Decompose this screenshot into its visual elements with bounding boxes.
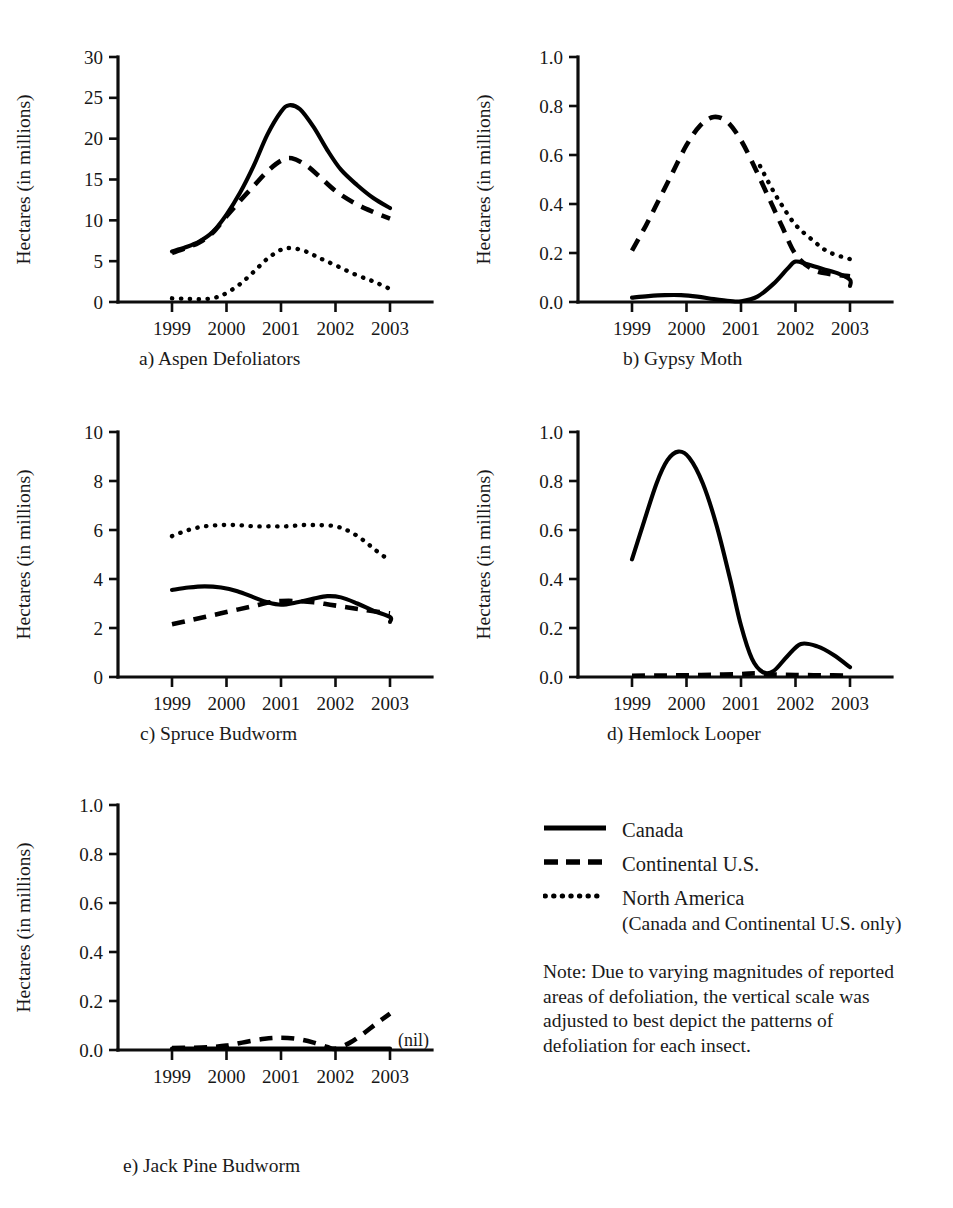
x-tick-label: 1999 xyxy=(613,318,651,339)
figure-note: Note: Due to varying magnitudes of repor… xyxy=(543,960,915,1058)
y-tick-label: 0.0 xyxy=(79,1040,103,1061)
y-tick-label: 0.8 xyxy=(539,471,563,492)
x-tick-label: 2000 xyxy=(668,318,706,339)
x-tick-label: 2002 xyxy=(317,1066,355,1087)
x-tick-label: 2001 xyxy=(722,318,760,339)
panel-caption-a: a) Aspen Defoliators xyxy=(139,348,300,370)
x-tick-label: 1999 xyxy=(153,693,191,714)
y-tick-label: 0.8 xyxy=(539,96,563,117)
x-tick-label: 2003 xyxy=(831,318,869,339)
legend-swatch-dotted xyxy=(543,889,607,911)
series-line-solid xyxy=(172,105,390,251)
series-line-dotted xyxy=(172,525,390,561)
chart-panel-e: 0.00.20.40.60.81.019992000200120022003Ye… xyxy=(0,778,470,1098)
y-tick-label: 0.4 xyxy=(539,194,563,215)
panel-caption-b: b) Gypsy Moth xyxy=(623,348,742,370)
legend-label-north-america: North America xyxy=(622,887,744,909)
x-tick-label: 1999 xyxy=(153,318,191,339)
y-tick-label: 25 xyxy=(84,87,103,108)
x-tick-label: 2003 xyxy=(371,1066,409,1087)
y-axis-title: Hectares (in millions) xyxy=(473,469,495,639)
x-tick-label: 2000 xyxy=(208,1066,246,1087)
legend-swatch-dashed xyxy=(543,855,607,877)
y-tick-label: 0.4 xyxy=(539,569,563,590)
y-tick-label: 0.8 xyxy=(79,844,103,865)
panel-caption-c: c) Spruce Budworm xyxy=(140,723,297,745)
y-tick-label: 0.2 xyxy=(539,243,563,264)
x-tick-label: 2001 xyxy=(262,1066,300,1087)
series-line-solid xyxy=(632,452,850,674)
panel-caption-d: d) Hemlock Looper xyxy=(607,723,761,745)
legend-label-continental-us: Continental U.S. xyxy=(622,852,759,877)
chart-panel-d: 0.00.20.40.60.81.019992000200120022003Ye… xyxy=(460,405,930,725)
y-tick-label: 2 xyxy=(94,618,104,639)
y-tick-label: 4 xyxy=(94,569,104,590)
y-tick-label: 0.0 xyxy=(539,667,563,688)
page-bleed-text xyxy=(40,1196,920,1206)
x-tick-label: 2002 xyxy=(317,693,355,714)
y-tick-label: 10 xyxy=(84,422,103,443)
y-tick-label: 20 xyxy=(84,128,103,149)
chart-svg-b: 0.00.20.40.60.81.019992000200120022003Ye… xyxy=(460,30,930,350)
x-tick-label: 2001 xyxy=(722,693,760,714)
y-tick-label: 0.0 xyxy=(539,292,563,313)
x-tick-label: 2001 xyxy=(262,318,300,339)
x-tick-label: 2002 xyxy=(777,693,815,714)
chart-svg-d: 0.00.20.40.60.81.019992000200120022003Ye… xyxy=(460,405,930,725)
y-tick-label: 0.2 xyxy=(539,618,563,639)
x-tick-label: 2002 xyxy=(777,318,815,339)
legend-item-canada: Canada xyxy=(543,818,943,843)
legend-item-north-america: North America (Canada and Continental U.… xyxy=(543,886,943,936)
y-tick-label: 0 xyxy=(94,292,104,313)
x-axis-title: Year xyxy=(263,1095,299,1098)
y-axis-title: Hectares (in millions) xyxy=(13,469,35,639)
panel-caption-e: e) Jack Pine Budworm xyxy=(123,1155,300,1177)
chart-svg-c: 024681019992000200120022003YearHectares … xyxy=(0,405,470,725)
y-tick-label: 8 xyxy=(94,471,104,492)
y-axis-title: Hectares (in millions) xyxy=(13,842,35,1012)
legend-item-continental-us: Continental U.S. xyxy=(543,852,943,877)
x-tick-label: 1999 xyxy=(613,693,651,714)
y-tick-label: 6 xyxy=(94,520,104,541)
chart-svg-e: 0.00.20.40.60.81.019992000200120022003Ye… xyxy=(0,778,470,1098)
x-tick-label: 2003 xyxy=(831,693,869,714)
x-tick-label: 2000 xyxy=(208,318,246,339)
y-tick-label: 0.4 xyxy=(79,942,103,963)
y-tick-label: 1.0 xyxy=(79,795,103,816)
chart-legend: Canada Continental U.S. North America (C… xyxy=(543,818,943,945)
y-tick-label: 0.6 xyxy=(79,893,103,914)
chart-panel-c: 024681019992000200120022003YearHectares … xyxy=(0,405,470,725)
x-tick-label: 2003 xyxy=(371,318,409,339)
chart-panel-a: 05101520253019992000200120022003YearHect… xyxy=(0,30,470,350)
x-tick-label: 1999 xyxy=(153,1066,191,1087)
legend-label-canada: Canada xyxy=(622,818,683,843)
chart-panel-b: 0.00.20.40.60.81.019992000200120022003Ye… xyxy=(460,30,930,350)
y-axis-title: Hectares (in millions) xyxy=(473,94,495,264)
y-tick-label: 0.6 xyxy=(539,520,563,541)
y-tick-label: 15 xyxy=(84,169,103,190)
x-tick-label: 2000 xyxy=(208,693,246,714)
series-line-dotted xyxy=(172,248,390,299)
series-line-solid xyxy=(632,261,851,301)
y-tick-label: 0.6 xyxy=(539,145,563,166)
y-tick-label: 1.0 xyxy=(539,47,563,68)
y-tick-label: 1.0 xyxy=(539,422,563,443)
legend-sublabel-north-america: (Canada and Continental U.S. only) xyxy=(622,911,901,936)
y-tick-label: 5 xyxy=(94,251,104,272)
series-line-dashed xyxy=(632,117,850,276)
y-tick-label: 0 xyxy=(94,667,104,688)
y-tick-label: 30 xyxy=(84,47,103,68)
legend-swatch-solid xyxy=(543,821,607,843)
y-axis-title: Hectares (in millions) xyxy=(13,94,35,264)
x-tick-label: 2002 xyxy=(317,318,355,339)
x-tick-label: 2003 xyxy=(371,693,409,714)
x-tick-label: 2000 xyxy=(668,693,706,714)
series-line-dashed xyxy=(172,1014,390,1049)
x-tick-label: 2001 xyxy=(262,693,300,714)
y-tick-label: 0.2 xyxy=(79,991,103,1012)
figure-root: 05101520253019992000200120022003YearHect… xyxy=(0,0,953,1208)
nil-annotation: (nil) xyxy=(398,1030,429,1051)
chart-svg-a: 05101520253019992000200120022003YearHect… xyxy=(0,30,470,350)
y-tick-label: 10 xyxy=(84,210,103,231)
